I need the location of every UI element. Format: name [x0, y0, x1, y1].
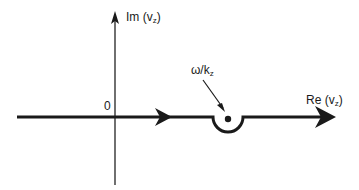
imaginary-axis-label-close: ): [157, 10, 161, 24]
imaginary-axis-label: Im (vz): [126, 10, 161, 25]
contour-path: [17, 117, 330, 132]
real-axis-label-main: Re (v: [306, 93, 335, 107]
origin-label: 0: [104, 99, 111, 113]
imaginary-axis-label-main: Im (v: [126, 10, 153, 24]
real-axis-label-close: ): [339, 93, 343, 107]
pole-label-sub: z: [210, 69, 214, 78]
pole-dot: [225, 116, 231, 122]
pole-pointer-arrowhead-icon: [217, 103, 225, 112]
pole-label: ω/kz: [191, 63, 214, 78]
real-axis-label: Re (vz): [306, 93, 343, 108]
pole-label-main: ω/k: [191, 63, 210, 77]
